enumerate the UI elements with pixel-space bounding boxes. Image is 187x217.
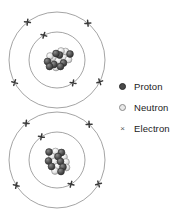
- legend: Proton Neutron × Electron: [116, 76, 187, 139]
- atom-top-shell-1-electron-2: [70, 80, 76, 86]
- electron-cross-icon: [70, 80, 76, 86]
- electron-marker-icon: ×: [116, 122, 129, 135]
- electron-cross-icon: [12, 80, 18, 86]
- atom-bottom-proton: [48, 163, 55, 170]
- legend-label-proton: Proton: [134, 80, 163, 93]
- atoms-group: [9, 12, 105, 208]
- legend-item-electron: × Electron: [116, 118, 187, 139]
- atom-top-shell-2-electron-2: [12, 80, 18, 86]
- atom-top-shell-1-electron-1: [41, 32, 47, 38]
- atom-bottom: [9, 112, 105, 208]
- electron-cross-icon: [38, 134, 44, 140]
- electron-cross-icon: [41, 32, 47, 38]
- proton-marker-icon: [116, 80, 129, 93]
- atom-top-proton: [67, 51, 74, 58]
- neutron-marker-icon: [116, 101, 129, 114]
- electron-cross-icon: [68, 181, 74, 187]
- electron-cross-icon: [13, 183, 19, 189]
- atom-bottom-shell-2-electron-2: [13, 183, 19, 189]
- legend-item-neutron: Neutron: [116, 97, 187, 118]
- atom-top-proton: [53, 50, 60, 57]
- atom-bottom-shell-2-electron-3: [96, 181, 102, 187]
- atom-top-nucleus: [44, 48, 73, 71]
- electron-cross-glyph: ×: [120, 125, 125, 133]
- electron-cross-icon: [96, 181, 102, 187]
- atom-bottom-shell-1-electron-1: [38, 134, 44, 140]
- atom-bottom-nucleus: [45, 148, 70, 175]
- electron-cross-icon: [97, 79, 103, 85]
- atom-top-proton: [46, 63, 53, 70]
- legend-label-electron: Electron: [134, 122, 170, 135]
- legend-label-neutron: Neutron: [134, 101, 169, 114]
- atom-bottom-proton: [46, 149, 53, 156]
- atom-top-proton: [57, 63, 64, 70]
- atom-bottom-shell-1-electron-2: [68, 181, 74, 187]
- atom-diagram-figure: Proton Neutron × Electron: [0, 0, 187, 217]
- legend-item-proton: Proton: [116, 76, 187, 97]
- atom-top-shell-2-electron-3: [97, 79, 103, 85]
- atom-top: [9, 12, 105, 108]
- atom-bottom-proton: [58, 168, 65, 175]
